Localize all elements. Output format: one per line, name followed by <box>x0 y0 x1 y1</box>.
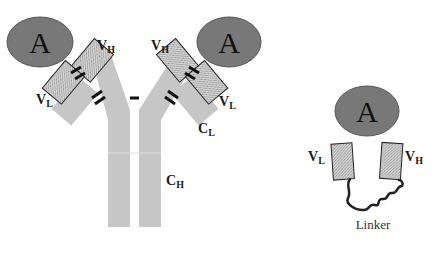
antigen-right: A <box>197 17 261 67</box>
antibody-diagram: A A VH VL VH VL CL CH A VL VH Linker <box>0 0 435 254</box>
scfv-vl-domain <box>331 143 354 180</box>
antigen-left: A <box>7 17 73 67</box>
label-scfv-vl: VL <box>308 149 325 166</box>
label-scfv-vh: VH <box>405 149 423 166</box>
svg-text:A: A <box>356 95 378 128</box>
label-cl: CL <box>198 121 215 138</box>
linker-chain <box>347 179 402 210</box>
svg-text:A: A <box>29 26 51 59</box>
scfv-vh-domain <box>379 142 402 179</box>
heavy-chain-stem-right <box>139 110 161 227</box>
linker-label: Linker <box>356 217 391 232</box>
label-vh-right: VH <box>151 38 169 55</box>
svg-text:A: A <box>218 26 240 59</box>
label-vh-left: VH <box>97 38 115 55</box>
scfv-fragment: A VL VH Linker <box>308 86 423 232</box>
heavy-chain-stem-left <box>108 110 130 227</box>
label-ch: CH <box>166 173 184 190</box>
label-vl-right: VL <box>219 94 236 111</box>
igg-antibody: A A VH VL VH VL CL CH <box>7 17 261 227</box>
antigen-scfv: A <box>335 86 399 136</box>
